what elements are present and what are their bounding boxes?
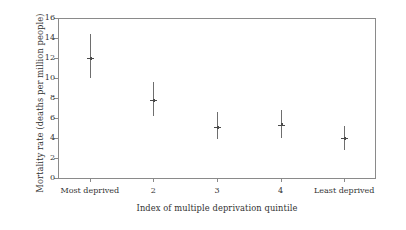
data-point-marker — [150, 100, 157, 101]
y-tick-label: 12 — [45, 53, 55, 62]
y-tick-label: 14 — [45, 33, 55, 42]
top-spine — [58, 18, 376, 19]
y-tick-label: 2 — [50, 153, 55, 162]
y-tick-label: 6 — [50, 113, 55, 122]
x-tick-label: 2 — [151, 186, 156, 195]
x-tick-mark — [153, 178, 154, 182]
y-tick-label: 10 — [45, 73, 55, 82]
x-tick-label: 3 — [214, 186, 219, 195]
y-tick-label: 16 — [45, 13, 55, 22]
plot-area: 0246810121416 Most deprived234Least depr… — [58, 18, 376, 178]
x-tick-label: Least deprived — [314, 186, 374, 195]
data-point-marker — [341, 138, 348, 139]
x-tick-label: 4 — [278, 186, 283, 195]
x-tick-mark — [90, 178, 91, 182]
data-point-marker — [214, 127, 221, 128]
data-point-marker — [87, 58, 94, 59]
x-axis-title: Index of multiple deprivation quintile — [58, 203, 376, 213]
x-tick-mark — [344, 178, 345, 182]
y-tick-label: 8 — [50, 93, 55, 102]
x-tick-mark — [217, 178, 218, 182]
y-axis-title: Mortality rate (deaths per million peopl… — [35, 8, 45, 198]
right-spine — [375, 18, 376, 178]
chart-figure: Mortality rate (deaths per million peopl… — [0, 0, 406, 230]
y-tick-label: 4 — [50, 133, 55, 142]
y-tick-label: 0 — [50, 173, 55, 182]
x-tick-mark — [281, 178, 282, 182]
x-tick-label: Most deprived — [60, 186, 119, 195]
data-point-marker — [278, 125, 285, 126]
y-axis-line — [58, 18, 59, 178]
